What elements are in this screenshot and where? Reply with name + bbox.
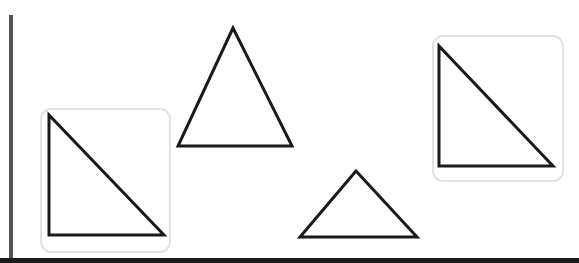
right-triangle-right-icon <box>439 46 553 166</box>
short-isosceles-triangle-icon[interactable] <box>300 171 417 237</box>
shapes-canvas <box>0 0 579 263</box>
tall-isosceles-triangle-icon[interactable] <box>178 28 292 146</box>
right-triangle-left-icon <box>49 115 164 235</box>
triangles-layer <box>0 0 579 263</box>
bottom-horizontal-rule <box>0 258 579 263</box>
